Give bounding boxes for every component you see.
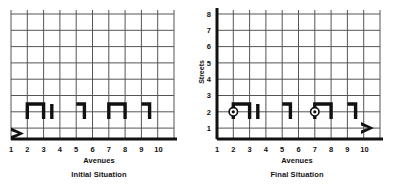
x-tick-8: 8: [123, 145, 127, 154]
x-tick-8: 8: [329, 145, 333, 154]
x-tick-3: 3: [248, 145, 252, 154]
x-tick-4: 4: [264, 145, 269, 154]
x-tick-2: 2: [231, 145, 235, 154]
x-tick-5: 5: [74, 145, 78, 154]
x-tick-7: 7: [313, 145, 317, 154]
x-tick-7: 7: [107, 145, 111, 154]
x-tick-4: 4: [58, 145, 63, 154]
y-axis-title-final: Streets: [198, 60, 205, 84]
beeper-circle: [229, 108, 237, 116]
y-tick-2: 2: [207, 108, 211, 117]
x-tick-10: 10: [154, 145, 162, 154]
beeper-circle: [311, 108, 319, 116]
x-tick-10: 10: [360, 145, 368, 154]
figure-container: 1 2 3 4 5 6 7 8 9 10 Avenues Initial Sit…: [0, 0, 396, 184]
panel-initial-situation: 1 2 3 4 5 6 7 8 9 10 Avenues Initial Sit…: [0, 0, 198, 184]
y-tick-1: 1: [207, 124, 211, 133]
x-tick-9: 9: [345, 145, 349, 154]
x-tick-2: 2: [25, 145, 29, 154]
y-tick-7: 7: [207, 26, 211, 35]
x-tick-6: 6: [296, 145, 300, 154]
x-tick-labels: 1 2 3 4 5 6 7 8 9 10: [215, 145, 369, 154]
panel-final-situation: 1 2 3 4 5 6 7 8 Streets 1 2 3 4 5 6 7 8: [198, 0, 396, 184]
vertical-gridlines: [217, 10, 380, 140]
x-tick-1: 1: [215, 145, 219, 154]
x-axis-title-final: Avenues: [198, 156, 396, 165]
y-tick-labels: 1 2 3 4 5 6 7 8: [207, 10, 212, 133]
vertical-gridlines: [11, 10, 174, 140]
y-tick-6: 6: [207, 42, 211, 51]
y-tick-5: 5: [207, 59, 211, 68]
x-tick-labels: 1 2 3 4 5 6 7 8 9 10: [9, 145, 163, 154]
x-tick-5: 5: [280, 145, 284, 154]
panel-caption-initial: Initial Situation: [0, 170, 198, 179]
x-axis-title-initial: Avenues: [0, 156, 198, 165]
x-tick-3: 3: [42, 145, 46, 154]
x-tick-9: 9: [139, 145, 143, 154]
panel-caption-final: Final Situation: [198, 170, 396, 179]
y-tick-8: 8: [207, 10, 211, 19]
x-tick-6: 6: [90, 145, 94, 154]
y-tick-3: 3: [207, 91, 211, 100]
y-tick-4: 4: [207, 75, 212, 84]
x-tick-1: 1: [9, 145, 13, 154]
